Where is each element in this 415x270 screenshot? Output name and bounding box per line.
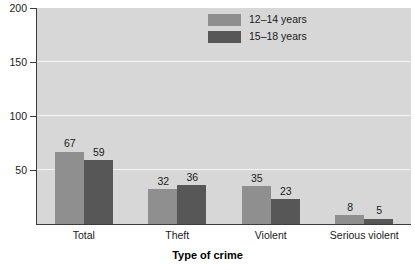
bar [271,199,300,224]
bar [177,185,206,224]
bar [335,215,364,224]
bar [84,160,113,224]
bar [55,152,84,224]
y-axis-label: 100 [9,111,27,122]
x-axis-label: Theft [131,230,225,241]
legend: 12–14 years 15–18 years [208,13,307,47]
bar-chart: 67593236352385 50100150200 TotalTheftVio… [0,0,415,270]
x-axis-label: Violent [224,230,318,241]
legend-item-0: 12–14 years [208,13,307,26]
bar-group [55,8,113,224]
legend-item-1: 15–18 years [208,30,307,43]
legend-swatch-15-18-years [208,31,241,43]
bar-group [148,8,206,224]
legend-swatch-12-14-years [208,14,241,26]
y-axis-tick [30,116,37,117]
bar [242,186,271,224]
y-axis-tick [30,62,37,63]
y-axis-tick [30,8,37,9]
y-axis-tick [30,170,37,171]
y-axis-label: 50 [15,165,27,176]
x-axis-title: Type of crime [0,250,415,261]
x-axis-label: Total [37,230,131,241]
x-axis-label: Serious violent [318,230,412,241]
legend-label-15-18-years: 15–18 years [249,31,307,42]
x-axis-line [36,224,411,225]
bar [148,189,177,224]
legend-label-12-14-years: 12–14 years [249,14,307,25]
bar-group [335,8,393,224]
y-axis-label: 150 [9,57,27,68]
y-axis-label: 200 [9,3,27,14]
